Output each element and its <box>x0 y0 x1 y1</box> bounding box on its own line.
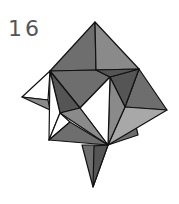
left-wing-white <box>22 71 50 100</box>
top-face-right <box>95 22 139 70</box>
top-face-left <box>50 22 96 71</box>
bottom-spike-right <box>93 145 108 187</box>
polyhedron-diagram <box>0 0 179 204</box>
